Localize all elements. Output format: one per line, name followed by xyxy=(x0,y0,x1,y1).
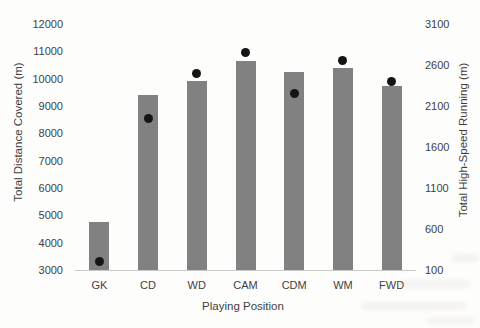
right-axis-title: Total High-Speed Running (m) xyxy=(457,60,469,220)
x-label-wd: WD xyxy=(173,279,221,291)
dot-cd xyxy=(144,114,153,123)
scan-bleedthrough-artifact xyxy=(452,254,478,262)
left-tick-label: 7000 xyxy=(23,155,63,167)
left-tick-label: 10000 xyxy=(23,73,63,85)
scan-bleedthrough-artifact xyxy=(398,280,470,288)
right-tick-label: 2600 xyxy=(425,59,465,71)
right-tick-label: 1600 xyxy=(425,141,465,153)
left-tick-label: 11000 xyxy=(23,45,63,57)
left-tick-label: 9000 xyxy=(23,100,63,112)
x-label-cd: CD xyxy=(124,279,172,291)
right-tick-label: 2100 xyxy=(425,100,465,112)
bar-cam xyxy=(236,61,256,270)
bar-wd xyxy=(187,81,207,270)
x-label-cdm: CDM xyxy=(270,279,318,291)
x-label-wm: WM xyxy=(319,279,367,291)
scan-bleedthrough-artifact xyxy=(362,302,466,310)
dot-wd xyxy=(192,69,201,78)
left-tick-label: 3000 xyxy=(23,264,63,276)
left-tick-label: 5000 xyxy=(23,209,63,221)
dot-cam xyxy=(241,48,250,57)
right-tick-label: 100 xyxy=(425,264,465,276)
x-axis-line xyxy=(75,270,416,271)
scan-bleedthrough-artifact xyxy=(428,317,474,324)
right-tick-label: 3100 xyxy=(425,18,465,30)
bar-cdm xyxy=(284,72,304,270)
dot-cdm xyxy=(290,89,299,98)
bar-fwd xyxy=(382,86,402,271)
left-tick-label: 6000 xyxy=(23,182,63,194)
left-tick-label: 12000 xyxy=(23,18,63,30)
right-tick-label: 1100 xyxy=(425,182,465,194)
dot-wm xyxy=(338,56,347,65)
x-label-gk: GK xyxy=(75,279,123,291)
x-label-cam: CAM xyxy=(222,279,270,291)
bar-wm xyxy=(333,68,353,270)
left-tick-label: 4000 xyxy=(23,237,63,249)
dual-axis-bar-chart: Total Distance Covered (m) Total High-Sp… xyxy=(0,0,480,328)
dot-fwd xyxy=(387,77,396,86)
left-tick-label: 8000 xyxy=(23,127,63,139)
right-tick-label: 600 xyxy=(425,223,465,235)
x-axis-title: Playing Position xyxy=(163,300,323,312)
